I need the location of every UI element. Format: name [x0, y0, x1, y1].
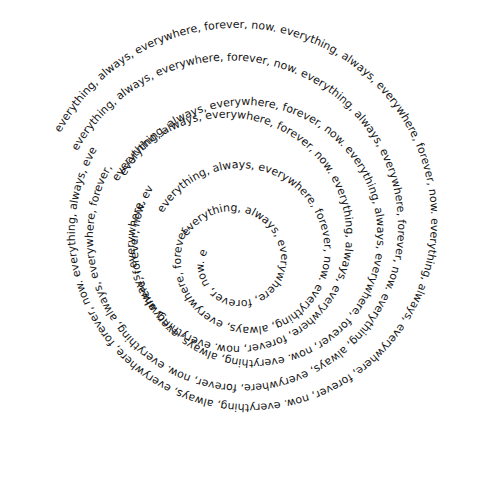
spiral-text-artwork: everything, always, everywhere, forever,… [0, 0, 481, 478]
inner-spiral-a-text: everything, always, everywhere, forever,… [0, 0, 334, 337]
spiral-rings: everything, always, everywhere, forever,… [0, 0, 441, 414]
